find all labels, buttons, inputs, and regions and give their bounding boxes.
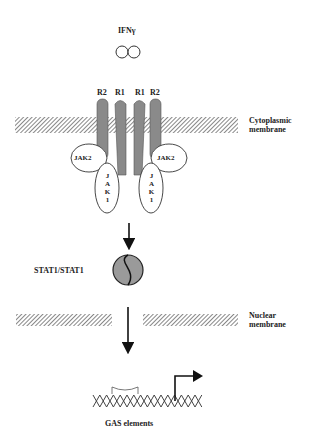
ifng-ligand-icon xyxy=(116,46,140,58)
stat-dimer-icon xyxy=(113,255,143,285)
receptor-label-r1-right: R1 xyxy=(135,88,145,97)
nuclear-membrane-right xyxy=(143,314,238,326)
receptor-label-r2-right: R2 xyxy=(150,88,160,97)
gas-element-bracket xyxy=(112,387,138,394)
ifng-label: IFNγ xyxy=(118,26,136,35)
gas-elements-label: GAS elements xyxy=(105,419,153,428)
transcription-start-arrow-icon xyxy=(175,376,194,401)
dna-helix-icon xyxy=(93,395,202,407)
receptor-label-r1-left: R1 xyxy=(115,88,125,97)
jak2-left-label: JAK2 xyxy=(74,154,92,163)
jak1-right-label: J A K 1 xyxy=(148,172,155,204)
nuclear-membrane-left xyxy=(16,314,112,326)
jak1-left-label: J A K 1 xyxy=(104,172,111,204)
stat-label: STAT1/STAT1 xyxy=(34,266,84,275)
cytoplasmic-membrane-label: Cytoplasmic membrane xyxy=(249,116,292,134)
ifng-signaling-diagram xyxy=(0,0,314,444)
jak2-right-label: JAK2 xyxy=(157,154,175,163)
receptor-label-r2-left: R2 xyxy=(97,88,107,97)
cytoplasmic-membrane xyxy=(15,117,238,133)
nuclear-membrane-label: Nuclear membrane xyxy=(249,311,286,329)
